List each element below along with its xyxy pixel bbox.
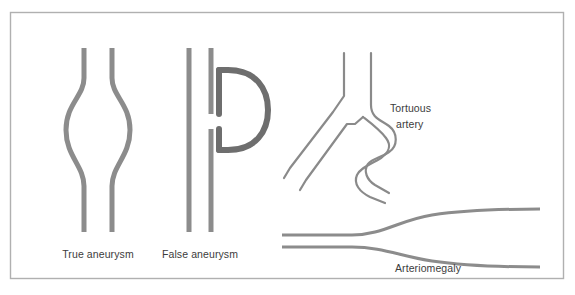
tortuous-artery-label-line2: artery [396,118,424,130]
false-aneurysm-label: False aneurysm [162,248,238,260]
arteriomegaly-diagram [282,209,540,267]
arterial-abnormalities-diagram: True aneurysm False aneurysm [0,0,575,295]
figure-border [11,13,564,279]
tortuous-artery-label-line1: Tortuous [390,102,431,114]
false-aneurysm-diagram [189,48,268,232]
true-aneurysm-label: True aneurysm [62,248,134,260]
tortuous-artery-branch-edge [300,117,363,190]
false-aneurysm-sac [219,70,268,150]
tortuous-artery-outer-edge [284,53,344,178]
arteriomegaly-label: Arteriomegaly [395,262,462,274]
figure-panel: True aneurysm False aneurysm [0,0,575,295]
true-aneurysm-left-wall [66,48,84,232]
tortuous-artery-diagram [284,53,396,203]
true-aneurysm-diagram [66,48,130,232]
arteriomegaly-upper-wall [282,209,540,235]
true-aneurysm-right-wall [112,48,130,232]
